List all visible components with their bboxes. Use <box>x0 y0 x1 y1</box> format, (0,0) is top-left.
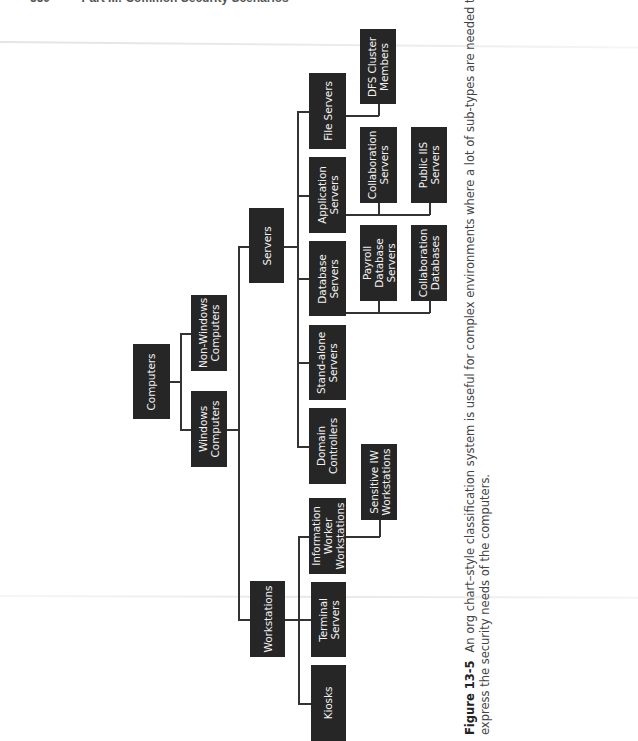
connector <box>297 111 309 113</box>
node-database-servers: Database Servers <box>309 241 346 316</box>
node-dfs-cluster-members: DFS Cluster Members <box>360 29 396 104</box>
node-collaboration-databases: Collaboration Databases <box>411 225 447 301</box>
connector <box>298 619 311 621</box>
connector <box>297 362 309 364</box>
connector <box>429 203 431 215</box>
connector <box>238 619 250 621</box>
connector <box>298 703 311 705</box>
node-application-servers: Application Servers <box>309 157 346 233</box>
node-standalone-servers: Stand-alone Servers <box>309 325 346 400</box>
page-number: 550 <box>30 0 50 5</box>
node-kiosks: Kiosks <box>311 665 346 741</box>
node-domain-controllers: Domain Controllers <box>309 408 346 484</box>
node-public-iis-servers: Public IIS Servers <box>411 127 447 203</box>
page-header: 550 Part III: Common Security Scenarios <box>30 0 289 5</box>
node-non-windows-computers: Non-Windows Computers <box>191 295 227 371</box>
caption-text: An org chart–style classification system… <box>463 0 477 653</box>
figure-label: Figure 13-5 <box>463 661 477 735</box>
connector <box>238 246 249 248</box>
connector <box>180 333 182 430</box>
connector <box>346 312 430 314</box>
part-title: Part III: Common Security Scenarios <box>81 0 288 5</box>
connector <box>346 115 379 117</box>
connector <box>378 104 380 116</box>
connector <box>180 333 191 335</box>
connector <box>284 246 298 248</box>
connector <box>297 446 309 448</box>
connector <box>180 429 191 431</box>
caption-text-continued: express the security needs of the comput… <box>478 474 492 735</box>
connector <box>346 536 380 538</box>
connector <box>379 520 381 537</box>
connector <box>298 536 309 538</box>
connector <box>378 301 380 313</box>
figure-caption-line2: express the security needs of the comput… <box>478 474 492 735</box>
connector <box>297 278 309 280</box>
node-collaboration-servers: Collaboration Servers <box>360 127 397 203</box>
connector <box>238 246 240 620</box>
node-file-servers: File Servers <box>309 73 346 149</box>
header-rule <box>0 41 638 49</box>
node-computers: Computers <box>133 344 170 419</box>
node-servers: Servers <box>249 208 284 283</box>
node-payroll-database-servers: Payroll Database Servers <box>360 225 397 301</box>
connector <box>285 619 299 621</box>
node-windows-computers: Windows Computers <box>191 391 227 467</box>
connector <box>378 203 380 215</box>
node-sensitive-iw-workstations: Sensitive IW Workstations <box>361 444 397 520</box>
connector <box>346 214 430 216</box>
node-workstations: Workstations <box>250 581 285 657</box>
connector <box>297 195 309 197</box>
node-terminal-servers: Terminal Servers <box>311 582 346 657</box>
node-information-worker-workstations: Information Worker Workstations <box>309 498 346 574</box>
figure-caption-line1: Figure 13-5An org chart–style classifica… <box>463 0 477 735</box>
connector <box>429 301 431 313</box>
